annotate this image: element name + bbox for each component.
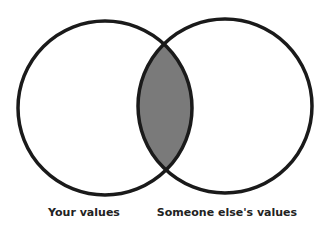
left-circle-label: Your values <box>48 206 120 219</box>
right-circle-label: Someone else's values <box>157 206 297 219</box>
